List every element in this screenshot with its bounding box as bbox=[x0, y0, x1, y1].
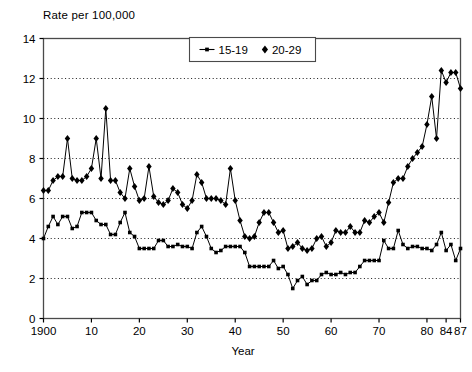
data-point-marker bbox=[453, 69, 458, 76]
data-point-marker bbox=[229, 245, 233, 249]
data-point-marker bbox=[99, 223, 103, 227]
data-point-marker bbox=[315, 279, 319, 283]
y-tick-label: 4 bbox=[29, 233, 36, 245]
y-tick-label: 10 bbox=[23, 113, 36, 125]
data-point-marker bbox=[209, 195, 214, 202]
data-point-marker bbox=[133, 235, 137, 239]
data-point-marker bbox=[200, 225, 204, 229]
y-axis-title: Rate per 100,000 bbox=[43, 9, 135, 21]
data-point-marker bbox=[416, 245, 420, 249]
data-point-marker bbox=[382, 239, 386, 243]
data-point-marker bbox=[205, 48, 209, 52]
data-point-marker bbox=[161, 201, 166, 208]
data-point-marker bbox=[56, 223, 60, 227]
data-point-marker bbox=[324, 243, 329, 250]
data-point-marker bbox=[290, 243, 295, 250]
data-point-marker bbox=[376, 209, 381, 216]
data-point-marker bbox=[363, 259, 367, 263]
data-point-marker bbox=[51, 215, 55, 219]
data-point-marker bbox=[170, 185, 175, 192]
data-point-marker bbox=[301, 275, 305, 279]
data-point-marker bbox=[138, 247, 142, 251]
data-point-marker bbox=[118, 221, 122, 225]
data-point-marker bbox=[392, 247, 396, 251]
data-point-marker bbox=[333, 227, 338, 234]
data-point-marker bbox=[280, 227, 285, 234]
data-point-marker bbox=[90, 211, 94, 215]
data-point-marker bbox=[70, 175, 75, 182]
x-axis-title-label: Year bbox=[231, 345, 254, 357]
x-tick-label: 84 bbox=[440, 325, 453, 337]
data-point-marker bbox=[272, 259, 276, 263]
x-tick-label: 80 bbox=[421, 325, 434, 337]
y-tick-label: 2 bbox=[29, 273, 35, 285]
data-point-marker bbox=[147, 247, 151, 251]
data-point-marker bbox=[324, 271, 328, 275]
data-point-marker bbox=[233, 245, 237, 249]
data-point-marker bbox=[387, 247, 391, 251]
data-point-marker bbox=[214, 251, 218, 255]
x-tick-label: 70 bbox=[373, 325, 386, 337]
data-point-marker bbox=[79, 177, 84, 184]
data-point-marker bbox=[320, 273, 324, 277]
data-point-marker bbox=[108, 177, 113, 184]
data-point-marker bbox=[55, 173, 60, 180]
data-point-marker bbox=[66, 215, 70, 219]
data-point-marker bbox=[391, 179, 396, 186]
data-point-marker bbox=[242, 233, 247, 240]
data-point-marker bbox=[353, 271, 357, 275]
data-point-marker bbox=[209, 247, 213, 251]
data-point-marker bbox=[46, 225, 50, 229]
data-point-marker bbox=[243, 251, 247, 255]
data-point-marker bbox=[123, 211, 127, 215]
data-point-marker bbox=[218, 197, 223, 204]
data-point-marker bbox=[141, 195, 146, 202]
data-point-marker bbox=[339, 271, 343, 275]
data-point-marker bbox=[285, 245, 290, 252]
data-point-marker bbox=[61, 215, 65, 219]
data-point-marker bbox=[204, 195, 209, 202]
x-tick-label: 1900 bbox=[31, 325, 57, 337]
data-point-marker bbox=[176, 243, 180, 247]
data-point-marker bbox=[276, 229, 281, 236]
data-point-marker bbox=[109, 233, 113, 237]
chart-legend[interactable]: 15-1920-29 bbox=[190, 38, 316, 62]
x-axis-title: Year bbox=[0, 345, 472, 357]
data-point-marker bbox=[395, 175, 400, 182]
y-tick-label: 14 bbox=[23, 33, 36, 45]
data-point-marker bbox=[50, 177, 55, 184]
data-point-marker bbox=[113, 177, 118, 184]
data-point-marker bbox=[70, 227, 74, 231]
data-point-marker bbox=[175, 189, 180, 196]
data-point-marker bbox=[444, 249, 448, 253]
data-point-marker bbox=[362, 217, 367, 224]
data-point-marker bbox=[406, 247, 410, 251]
data-point-marker bbox=[329, 273, 333, 277]
y-axis-ticks: 02468101214 bbox=[23, 33, 44, 325]
data-series-layer bbox=[41, 67, 463, 290]
data-point-marker bbox=[238, 245, 242, 249]
data-point-marker bbox=[430, 249, 434, 253]
data-point-marker bbox=[114, 233, 118, 237]
data-point-marker bbox=[348, 271, 352, 275]
x-tick-label: 87 bbox=[454, 325, 467, 337]
line-chart-plot: 02468101214 190010203040506070808487 15-… bbox=[0, 0, 472, 372]
data-point-marker bbox=[127, 165, 132, 172]
data-point-marker bbox=[80, 211, 84, 215]
data-point-marker bbox=[232, 197, 237, 204]
data-point-marker bbox=[228, 165, 233, 172]
y-tick-label: 6 bbox=[29, 193, 35, 205]
data-point-marker bbox=[396, 229, 400, 233]
data-point-marker bbox=[42, 237, 46, 241]
data-point-marker bbox=[267, 265, 271, 269]
data-point-marker bbox=[334, 273, 338, 277]
data-point-marker bbox=[257, 265, 261, 269]
data-point-marker bbox=[93, 135, 98, 142]
data-point-marker bbox=[358, 265, 362, 269]
data-point-marker bbox=[400, 175, 405, 182]
data-point-marker bbox=[46, 187, 51, 194]
data-point-marker bbox=[253, 265, 257, 269]
data-point-marker bbox=[171, 245, 175, 249]
data-point-marker bbox=[304, 247, 309, 254]
data-point-marker bbox=[132, 183, 137, 190]
